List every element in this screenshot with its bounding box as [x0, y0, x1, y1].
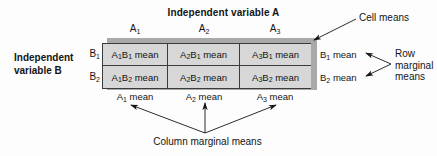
column-marginal-a1-mean: A1 mean [103, 92, 167, 102]
independent-variable-b-label: Independent variable B [14, 51, 73, 77]
cell-means-arrow [314, 19, 356, 40]
row-marginal-line3: means [395, 71, 425, 82]
cell-a2b1-sub-b: 1 [197, 53, 201, 60]
cell-a1b2-sub-b: 2 [128, 76, 132, 83]
figure-canvas: Independent variable A Independent varia… [0, 0, 437, 156]
cell-a1b1-sub-a: 1 [118, 53, 122, 60]
column-header-a2: A2 [184, 24, 224, 35]
row-header-b2-subscript: 2 [96, 76, 100, 83]
row-marginal-b2-subscript: 2 [326, 77, 330, 84]
row-header-b2: B2 [82, 72, 100, 83]
table-cell-a1b1: A1B1 mean [103, 44, 168, 66]
row-marginal-b2-mean: B2 mean [320, 73, 357, 83]
cell-a1b1-sub-b: 1 [128, 53, 132, 60]
row-marginal-arrow-b2 [366, 64, 391, 76]
axis-b-line2: variable B [14, 65, 62, 76]
column-header-a1-subscript: 1 [136, 28, 140, 35]
row-marginal-b1-mean: B1 mean [320, 50, 357, 60]
row-header-b1: B1 [82, 49, 100, 60]
table-cell-a3b1: A3B1 mean [240, 44, 311, 66]
cell-a3b2-sub-b: 2 [269, 76, 273, 83]
column-marginal-a2-mean: A2 mean [172, 92, 236, 102]
column-header-a3-subscript: 3 [276, 28, 280, 35]
title-text: Independent variable A [168, 7, 280, 18]
row-marginal-arrow-b1 [366, 53, 391, 64]
table-cell-a2b1: A2B1 mean [168, 44, 240, 66]
cell-means-annotation: Cell means [359, 13, 409, 24]
row-marginal-line1: Row [395, 48, 415, 59]
column-marginal-a2-subscript: 2 [192, 96, 196, 103]
column-header-a1: A1 [115, 24, 155, 35]
column-marginal-means-annotation: Column marginal means [0, 137, 437, 148]
table-cell-a2b2: A2B2 mean [168, 66, 240, 88]
row-marginal-line2: marginal [395, 60, 433, 71]
means-table: A1B1 mean A2B1 mean A3B1 mean A1B2 mean … [102, 43, 311, 89]
column-marginal-arrow-a3 [205, 105, 276, 133]
table-cell-a1b2: A1B2 mean [103, 66, 168, 88]
row-marginal-b1-subscript: 1 [326, 54, 330, 61]
column-marginal-text: Column marginal means [153, 136, 261, 147]
row-marginal-means-annotation: Row marginal means [395, 48, 433, 83]
cell-a1b2-sub-a: 1 [118, 76, 122, 83]
cell-means-text: Cell means [359, 12, 409, 23]
column-marginal-a3-mean: A3 mean [243, 92, 307, 102]
axis-b-line1: Independent [14, 52, 73, 63]
cell-a2b2-sub-b: 2 [197, 76, 201, 83]
column-marginal-a3-subscript: 3 [263, 96, 267, 103]
column-marginal-a1-subscript: 1 [123, 96, 127, 103]
table-cell-a3b2: A3B2 mean [240, 66, 311, 88]
column-marginal-arrow-a1 [131, 105, 205, 133]
column-header-a3: A3 [255, 24, 295, 35]
cell-a2b2-sub-a: 2 [186, 76, 190, 83]
cell-a2b1-sub-a: 2 [186, 53, 190, 60]
cell-a3b1-sub-a: 3 [258, 53, 262, 60]
cell-a3b1-sub-b: 1 [269, 53, 273, 60]
row-header-b1-subscript: 1 [96, 53, 100, 60]
cell-a3b2-sub-a: 3 [258, 76, 262, 83]
column-header-a2-subscript: 2 [205, 28, 209, 35]
